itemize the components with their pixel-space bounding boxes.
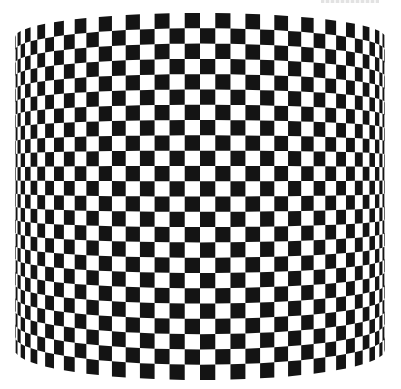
checker-square xyxy=(301,106,313,121)
checker-square xyxy=(384,75,385,89)
checker-square xyxy=(140,151,155,166)
checker-square xyxy=(21,262,25,277)
checker-square xyxy=(140,212,155,227)
checker-square xyxy=(200,242,215,257)
checker-square xyxy=(16,286,18,301)
checker-square xyxy=(369,181,375,195)
checker-square xyxy=(369,125,375,139)
checker-square xyxy=(99,345,112,361)
checker-square xyxy=(384,48,385,63)
checker-square xyxy=(64,297,75,313)
checker-square xyxy=(16,73,18,88)
checker-square xyxy=(126,347,140,363)
checker-square xyxy=(382,273,384,288)
checker-square xyxy=(274,226,288,241)
checker-square xyxy=(31,320,38,336)
checker-square xyxy=(288,241,301,256)
checker-square xyxy=(230,181,245,196)
checker-square xyxy=(346,51,355,67)
checker-square xyxy=(185,288,200,303)
checker-square xyxy=(18,194,21,208)
checker-square xyxy=(355,322,363,338)
checker-square xyxy=(126,105,140,120)
checker-square xyxy=(140,303,155,319)
checker-square xyxy=(18,301,21,316)
checker-square xyxy=(301,255,313,271)
checker-square xyxy=(99,136,112,151)
checker-square xyxy=(21,98,25,113)
checker-square xyxy=(363,195,370,209)
checker-square xyxy=(25,27,31,43)
checker-square xyxy=(369,291,375,306)
checker-square xyxy=(379,261,382,276)
checker-square xyxy=(155,257,170,272)
checker-square xyxy=(363,110,370,125)
checker-square xyxy=(54,166,64,181)
checker-square xyxy=(16,313,18,328)
checker-square xyxy=(230,333,245,349)
checker-square xyxy=(274,15,288,31)
checker-square xyxy=(379,45,382,60)
checker-square xyxy=(86,359,98,375)
checker-square xyxy=(346,195,355,210)
checker-square xyxy=(37,280,45,295)
checker-square xyxy=(54,79,64,94)
checker-square xyxy=(215,105,230,120)
checker-square xyxy=(54,282,64,298)
checker-square xyxy=(355,237,363,252)
checker-square xyxy=(185,227,200,242)
checker-square xyxy=(45,324,54,340)
checker-square xyxy=(99,286,112,302)
checker-square xyxy=(314,33,326,49)
checker-square xyxy=(15,88,16,102)
checker-square xyxy=(21,344,25,360)
checker-square xyxy=(314,210,326,225)
checker-square xyxy=(369,236,375,251)
checker-square xyxy=(170,59,185,74)
checker-square xyxy=(75,255,87,270)
checker-square xyxy=(379,72,382,87)
checker-square xyxy=(355,181,363,195)
checker-square xyxy=(15,141,16,155)
checker-square xyxy=(215,44,230,59)
checker-square xyxy=(45,123,54,138)
checker-square xyxy=(200,181,215,196)
checker-square xyxy=(75,77,87,93)
checker-square xyxy=(274,346,288,362)
checker-square xyxy=(346,338,355,354)
checker-square xyxy=(64,268,75,284)
checker-square xyxy=(260,332,274,348)
checker-square xyxy=(375,84,379,99)
checker-square xyxy=(64,93,75,108)
checker-square xyxy=(336,325,346,341)
checker-square xyxy=(64,356,75,372)
checker-square xyxy=(314,299,326,315)
checker-square xyxy=(314,181,326,196)
checker-square xyxy=(21,317,25,333)
checker-square xyxy=(274,75,288,91)
checker-square xyxy=(325,19,336,35)
checker-square xyxy=(369,318,375,334)
checker-square xyxy=(37,81,45,96)
checker-square xyxy=(185,135,200,150)
checker-square xyxy=(112,271,126,287)
checker-square xyxy=(140,333,155,349)
checker-square xyxy=(363,26,370,42)
checker-square xyxy=(126,166,140,181)
checker-square xyxy=(25,111,31,126)
checker-square xyxy=(288,300,301,316)
checker-square xyxy=(86,92,98,107)
checker-square xyxy=(245,166,260,181)
checker-square xyxy=(260,29,274,45)
checker-square xyxy=(384,180,385,193)
checker-square xyxy=(260,90,274,105)
checker-square xyxy=(15,220,16,234)
checker-square xyxy=(37,138,45,153)
checker-square xyxy=(15,194,16,207)
checker-square xyxy=(382,140,384,154)
checker-square xyxy=(325,196,336,211)
checker-square xyxy=(363,54,370,69)
checker-square xyxy=(346,109,355,124)
checker-square xyxy=(314,151,326,166)
checker-square xyxy=(301,166,313,181)
